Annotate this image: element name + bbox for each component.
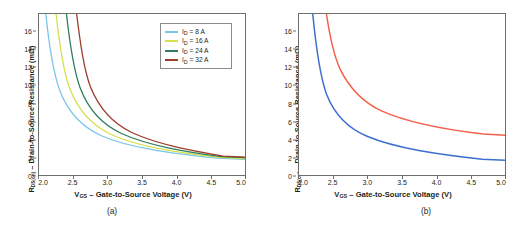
y-tick-label: 10: [284, 82, 292, 89]
x-axis-title-b-rest: – Gate-to-Source Voltage (V): [347, 190, 452, 199]
legend-label-subscript: D: [184, 30, 188, 36]
legend-label-subscript: D: [184, 40, 188, 46]
legend-item: ID = 8 A: [165, 27, 226, 37]
y-tick-label: 4: [28, 136, 32, 143]
y-axis-ticks-a: 0 2 4 6 8 10 12 14 16: [0, 13, 36, 176]
plot-area-b: [298, 13, 506, 176]
legend-swatch-icon: [165, 50, 178, 52]
legend-item: ID = 32 A: [165, 56, 226, 66]
x-tick-label: 3.0: [102, 179, 112, 186]
legend-item-label: ID = 16 A: [182, 37, 208, 45]
x-tick-label: 4.0: [432, 179, 442, 186]
x-axis-title-a: VGS – Gate-to-Source Voltage (V): [20, 190, 246, 199]
x-tick-label: 3.5: [397, 179, 407, 186]
panel-caption-a: (a): [0, 206, 242, 216]
x-tick-label: 2.5: [68, 179, 78, 186]
x-tick-label: 5.0: [236, 179, 246, 186]
x-tick-label: 2.0: [298, 179, 308, 186]
plot-curves-b: [299, 14, 505, 175]
x-axis-title-b: VGS – Gate-to-Source Voltage (V): [280, 190, 506, 199]
legend-swatch-icon: [165, 40, 178, 42]
y-tick-label: 0: [288, 173, 292, 180]
x-tick-label: 4.5: [466, 179, 476, 186]
legend-a: ID = 8 A ID = 16 A ID = 24 A ID = 32 A: [160, 23, 232, 69]
curve-temp-25c: [313, 14, 505, 160]
x-tick-label: 4.0: [172, 179, 182, 186]
y-tick-label: 14: [24, 46, 32, 53]
legend-label-subscript: D: [184, 59, 188, 65]
figure-container: RDS(on) – Drain-to-Source Resistance (mΩ…: [0, 0, 520, 237]
y-tick-label: 12: [24, 64, 32, 71]
curve-temp-125c: [326, 14, 505, 135]
y-tick-label: 6: [28, 118, 32, 125]
legend-item-label: ID = 24 A: [182, 47, 208, 55]
x-axis-ticks-b: 2.0 2.5 3.0 3.5 4.0 4.5 5.0: [298, 177, 506, 189]
legend-item: ID = 24 A: [165, 46, 226, 56]
y-tick-label: 16: [284, 28, 292, 35]
legend-swatch-icon: [165, 59, 178, 61]
legend-label-subscript: D: [184, 49, 188, 55]
x-axis-title-a-subscript: GS: [79, 193, 87, 199]
legend-item-label: ID = 8 A: [182, 28, 205, 36]
y-tick-label: 4: [288, 136, 292, 143]
y-tick-label: 2: [28, 154, 32, 161]
y-tick-label: 8: [288, 100, 292, 107]
legend-label-rest: = 24 A: [188, 47, 209, 54]
chart-panel-b: RDS(on) – Drain-to-Source Resistance (mΩ…: [260, 0, 520, 237]
panel-caption-b: (b): [296, 206, 520, 216]
x-tick-label: 5.0: [496, 179, 506, 186]
legend-item: ID = 16 A: [165, 37, 226, 47]
legend-label-rest: = 32 A: [188, 56, 209, 63]
x-tick-label: 3.0: [362, 179, 372, 186]
y-tick-label: 6: [288, 118, 292, 125]
y-tick-label: 14: [284, 46, 292, 53]
legend-item-label: ID = 32 A: [182, 56, 208, 64]
y-axis-ticks-b: 0 2 4 6 8 10 12 14 16: [260, 13, 296, 176]
x-tick-label: 2.0: [38, 179, 48, 186]
legend-swatch-icon: [165, 31, 178, 33]
y-tick-label: 0: [28, 173, 32, 180]
y-tick-label: 10: [24, 82, 32, 89]
legend-label-rest: = 16 A: [188, 37, 209, 44]
x-tick-label: 2.5: [328, 179, 338, 186]
x-axis-ticks-a: 2.0 2.5 3.0 3.5 4.0 4.5 5.0: [38, 177, 246, 189]
y-tick-label: 16: [24, 28, 32, 35]
x-axis-title-b-subscript: GS: [339, 193, 347, 199]
x-tick-label: 3.5: [137, 179, 147, 186]
y-tick-label: 12: [284, 64, 292, 71]
x-axis-title-a-rest: – Gate-to-Source Voltage (V): [87, 190, 192, 199]
legend-label-rest: = 8 A: [188, 28, 205, 35]
y-tick-label: 2: [288, 154, 292, 161]
y-tick-label: 8: [28, 100, 32, 107]
chart-panel-a: RDS(on) – Drain-to-Source Resistance (mΩ…: [0, 0, 260, 237]
x-tick-label: 4.5: [206, 179, 216, 186]
